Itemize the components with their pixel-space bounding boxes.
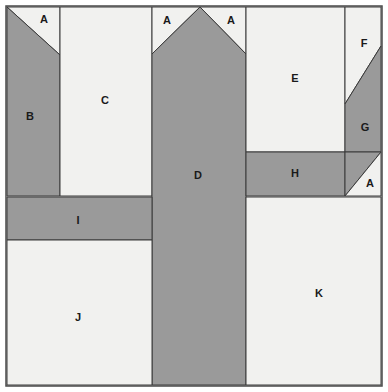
region-label-a2: A — [163, 14, 171, 26]
region-label-k: K — [315, 287, 323, 299]
region-map-canvas: ABCAADEFGHAIJK — [0, 0, 388, 392]
region-label-g: G — [361, 121, 370, 133]
region-label-a1: A — [40, 13, 48, 25]
region-label-a3: A — [227, 14, 235, 26]
regions-group — [7, 7, 381, 385]
region-label-e: E — [291, 72, 298, 84]
region-d — [152, 7, 246, 385]
region-label-b: B — [26, 110, 34, 122]
region-label-f: F — [361, 37, 368, 49]
region-k — [246, 197, 381, 385]
region-label-h: H — [291, 167, 299, 179]
region-label-a4: A — [366, 177, 374, 189]
region-label-c: C — [101, 94, 109, 106]
region-label-i: I — [76, 214, 79, 226]
facade-segmentation-figure: ABCAADEFGHAIJK — [0, 0, 388, 392]
region-label-j: J — [75, 311, 81, 323]
region-label-d: D — [194, 169, 202, 181]
